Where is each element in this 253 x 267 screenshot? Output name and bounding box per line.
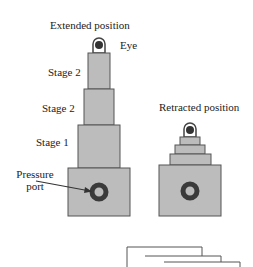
extended-cylinder [68,38,130,216]
stage-middle-label: Stage 2 [42,102,75,114]
stage-top [88,53,110,89]
retracted-position-title: Retracted position [159,101,239,113]
stage-middle [84,89,114,125]
stage-bottom-label: Stage 1 [36,136,69,148]
stage-top-label: Stage 2 [48,66,81,78]
eye-label: Eye [120,39,137,51]
base-barrel [68,168,130,216]
partial-figure-lines [127,247,240,267]
stage-bottom [78,125,120,168]
retracted-cylinder [159,123,221,216]
extended-position-title: Extended position [50,19,130,31]
pressure-port-label: Pressure port [14,168,56,192]
